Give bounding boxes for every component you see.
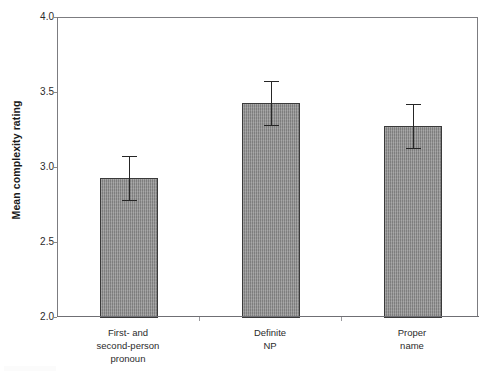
- error-bar-stem: [413, 104, 414, 149]
- error-bar-cap-upper: [406, 104, 421, 105]
- plot-area: [57, 17, 478, 317]
- error-bar-cap-lower: [122, 200, 137, 201]
- scan-artifact: [4, 366, 56, 371]
- x-tick-mark-2: [341, 317, 342, 321]
- x-category-label-first-and-second-person-pronoun: First- and second-person pronoun: [70, 326, 186, 365]
- x-category-label-proper-name: Proper name: [354, 326, 470, 352]
- y-axis-title: Mean complexity rating: [4, 0, 28, 320]
- bar-chart-figure: Mean complexity rating 4.0 3.5 3.0 2.5 2…: [0, 0, 494, 376]
- y-tick-label-2-0: 2.0: [26, 312, 54, 322]
- x-tick-mark-1: [199, 317, 200, 321]
- error-bar-cap-lower: [264, 125, 279, 126]
- error-bar-stem: [271, 81, 272, 126]
- error-bar-first-and-second-person-pronoun: [121, 156, 137, 201]
- error-bar-stem: [129, 156, 130, 201]
- y-tick-label-2-5: 2.5: [26, 237, 54, 247]
- error-bar-cap-upper: [122, 156, 137, 157]
- bar-proper-name: [384, 126, 442, 318]
- y-tick-label-3-0: 3.0: [26, 162, 54, 172]
- y-tick-mark-2-0: [53, 317, 57, 318]
- bar-definite-np: [242, 103, 300, 318]
- error-bar-definite-np: [263, 81, 279, 126]
- y-tick-label-3-5: 3.5: [26, 87, 54, 97]
- error-bar-cap-upper: [264, 81, 279, 82]
- x-category-label-definite-np: Definite NP: [212, 326, 328, 352]
- y-tick-label-4-0: 4.0: [26, 12, 54, 22]
- x-axis-baseline: [57, 316, 479, 317]
- error-bar-proper-name: [405, 104, 421, 149]
- y-axis-title-text: Mean complexity rating: [10, 101, 22, 220]
- error-bar-cap-lower: [406, 148, 421, 149]
